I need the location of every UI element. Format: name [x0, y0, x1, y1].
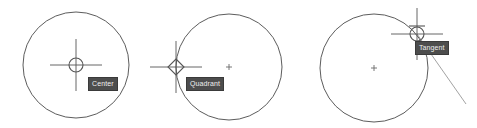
- figure-quadrant-snap: [150, 14, 282, 120]
- snap-tooltip-center: Center: [88, 77, 118, 91]
- snap-tooltip-quadrant: Quadrant: [186, 77, 224, 91]
- cad-geometry-layer: [0, 0, 477, 128]
- center-tick-mark-quadrant: [226, 64, 232, 70]
- snap-tooltip-tangent: Tangent: [415, 41, 449, 55]
- cad-drawing-canvas[interactable]: Center Quadrant Tangent: [0, 0, 477, 128]
- center-tick-mark-tangent: [371, 65, 377, 71]
- figure-tangent-snap: [320, 8, 466, 122]
- figure-center-snap: [23, 12, 129, 118]
